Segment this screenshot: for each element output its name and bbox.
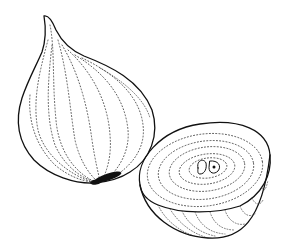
whole-onion — [18, 16, 154, 186]
onion-illustration — [0, 0, 287, 251]
halved-onion — [139, 122, 270, 238]
